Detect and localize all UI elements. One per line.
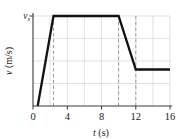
y-axis-title-unit: (m/s) xyxy=(3,47,15,71)
x-tick-label-4: 4 xyxy=(65,111,71,122)
x-tick-label-8: 8 xyxy=(99,111,104,122)
y-axis-title: v (m/s) xyxy=(3,47,15,75)
x-axis-title-unit: (s) xyxy=(96,127,109,139)
velocity-time-chart: 0 4 8 12 16 vs t (s) v (m/s) xyxy=(0,0,183,139)
x-tick-label-12: 12 xyxy=(131,111,142,122)
x-tick-label-0: 0 xyxy=(30,111,35,122)
peak-velocity-label: vs xyxy=(23,11,30,22)
x-tick-label-16: 16 xyxy=(165,111,176,122)
chart-canvas: 0 4 8 12 16 vs t (s) v (m/s) xyxy=(0,0,183,139)
x-axis-title: t (s) xyxy=(93,127,109,139)
